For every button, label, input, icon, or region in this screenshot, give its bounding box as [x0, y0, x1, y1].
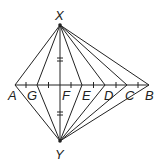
label-B: B: [145, 88, 154, 103]
segments: [15, 25, 149, 141]
label-C: C: [125, 88, 135, 103]
label-Y: Y: [55, 147, 65, 162]
segment-XC: [60, 25, 127, 85]
segment-XE: [60, 25, 82, 85]
segment-YA: [15, 85, 60, 141]
segment-XA: [15, 25, 60, 85]
segment-YG: [37, 85, 60, 141]
vertex-Y-dot: [58, 139, 62, 143]
label-A: A: [7, 88, 17, 103]
vertex-X-dot: [58, 23, 62, 27]
diagram-canvas: X Y A G F E D C B: [0, 0, 159, 164]
label-X: X: [54, 8, 65, 23]
label-E: E: [82, 88, 91, 103]
label-F: F: [62, 88, 71, 103]
label-G: G: [27, 88, 37, 103]
segment-YC: [60, 85, 127, 141]
segment-XB: [60, 25, 149, 85]
segment-XG: [37, 25, 60, 85]
label-D: D: [104, 88, 113, 103]
segment-XD: [60, 25, 105, 85]
geometry-diagram: X Y A G F E D C B: [0, 0, 159, 164]
